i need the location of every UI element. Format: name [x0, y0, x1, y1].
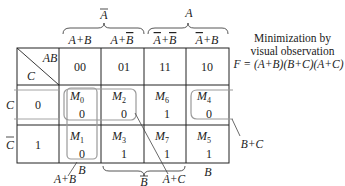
column-code: 00: [74, 60, 86, 74]
kmap-cell-m7: M71: [154, 129, 170, 161]
pointer-lines: [68, 113, 240, 176]
column-code: 10: [201, 60, 213, 74]
column-sum-term: A+B: [110, 33, 134, 47]
cell-value: 1: [164, 107, 170, 121]
column-sum-term: A+B: [68, 33, 92, 47]
maxterm-label: M0: [69, 89, 84, 105]
maxterm-label: M2: [111, 89, 126, 105]
maxterm-label: M4: [196, 89, 211, 105]
column-sum-terms: A+BA+BA+BA+B: [68, 33, 219, 47]
maxterm-index: 1: [80, 136, 84, 145]
kmap-cell-m6: M61: [154, 89, 170, 121]
maxterm-index: 7: [165, 136, 169, 145]
literal: B: [84, 33, 92, 47]
row-code: 0: [35, 98, 41, 112]
cell-value: 1: [206, 147, 212, 161]
bottom-label-b: B: [204, 165, 212, 179]
maxterm-label: M7: [154, 129, 169, 145]
note-line-1: Minimization by: [240, 32, 345, 45]
corner-label-c: C: [27, 69, 36, 83]
maxterm-label: M1: [69, 129, 84, 145]
column-sum-term: A+B: [153, 33, 177, 47]
bottom-label-b-bar: B: [140, 175, 148, 186]
row-label-c-bar: C: [6, 138, 15, 152]
bottom-label-b: B: [78, 163, 86, 177]
minimized-expression: F = (A+B)(B+C)(A+C): [232, 58, 345, 71]
column-code: 01: [118, 60, 130, 74]
karnaugh-map: A A A+BA+BA+BA+B AB C 00 01 11 10 C 0 C …: [0, 0, 345, 186]
kmap-cell-m3: M31: [111, 129, 127, 161]
maxterm-label: M6: [154, 89, 169, 105]
maxterm-index: 4: [207, 96, 211, 105]
cell-value: 0: [121, 107, 127, 121]
kmap-cell-m5: M51: [196, 129, 212, 161]
maxterm-index: 6: [165, 96, 169, 105]
top-label-a-bar: A: [99, 8, 108, 22]
group-label-a-plus-c: A+C: [162, 173, 186, 185]
complemented-literal: B: [169, 33, 177, 47]
maxterm-label: M5: [196, 129, 211, 145]
kmap-cell-m2: M20: [111, 89, 127, 121]
row-label-c: C: [6, 98, 15, 112]
kmap-cell-m4: M40: [196, 89, 212, 121]
column-sum-term: A+B: [195, 33, 219, 47]
row-code: 1: [35, 138, 41, 152]
literal: +: [161, 33, 169, 47]
column-code: 11: [159, 60, 171, 74]
kmap-cell-m0: M00: [69, 89, 85, 121]
minimization-note: Minimization by visual observation F = (…: [240, 32, 345, 71]
literal: +: [118, 33, 126, 47]
top-label-a: A: [184, 6, 193, 20]
note-line-2: visual observation: [240, 45, 345, 58]
literal: +: [76, 33, 84, 47]
maxterm-index: 0: [80, 96, 84, 105]
corner-label-ab: AB: [42, 51, 58, 65]
literal: +: [203, 33, 211, 47]
cell-value: 1: [121, 147, 127, 161]
cell-value: 1: [164, 147, 170, 161]
group-label-a-plus-b: A+B: [53, 173, 76, 185]
group-label-b-plus-c: B+C: [241, 138, 264, 150]
maxterm-index: 2: [122, 96, 126, 105]
maxterm-index: 3: [122, 136, 126, 145]
complemented-literal: B: [126, 33, 134, 47]
literal: B: [211, 33, 219, 47]
cell-value: 0: [79, 107, 85, 121]
kmap-cell-m1: M10: [69, 129, 85, 161]
maxterm-index: 5: [207, 136, 211, 145]
maxterm-label: M3: [111, 129, 126, 145]
